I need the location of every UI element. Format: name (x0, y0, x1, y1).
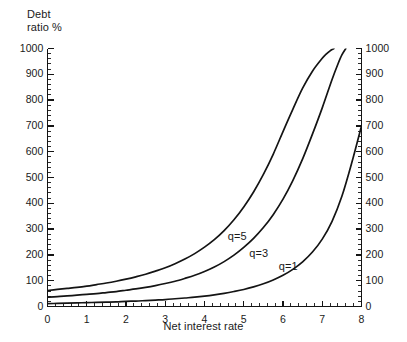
curve-label: q=1 (279, 260, 298, 272)
y-axis-title-text-2: ratio % (27, 21, 62, 33)
y-axis-tick-label: 100 (26, 274, 44, 286)
curve-label: q=5 (228, 230, 247, 242)
y-axis-tick-label: 800 (26, 93, 44, 105)
x-axis-tick-label: 3 (145, 313, 185, 325)
debt-ratio-line-chart (0, 0, 407, 342)
axes-group (48, 49, 362, 307)
y-axis-tick-label: 700 (26, 119, 44, 131)
y-axis-right-tick-label: 300 (366, 222, 384, 234)
y-axis-tick-label: 400 (26, 196, 44, 208)
y-axis-right-tick-label: 500 (366, 171, 384, 183)
y-axis-right-tick-label: 600 (366, 145, 384, 157)
curves-group (48, 49, 362, 304)
x-axis-tick-label: 8 (342, 313, 382, 325)
y-axis-right-tick-label: 200 (366, 248, 384, 260)
y-axis-right-tick-label: 100 (366, 274, 384, 286)
chart-figure: Debtratio % Net interest rate 0100200300… (0, 0, 407, 342)
y-axis-right-tick-label: 1000 (366, 42, 390, 54)
y-axis-right-tick-label: 900 (366, 67, 384, 79)
curve-label: q=3 (249, 247, 268, 259)
y-axis-right-tick-label: 800 (366, 93, 384, 105)
y-axis-tick-label: 600 (26, 145, 44, 157)
x-axis-tick-label: 2 (106, 313, 146, 325)
x-axis-tick-label: 1 (67, 313, 107, 325)
x-axis-tick-label: 5 (224, 313, 264, 325)
y-axis-title-text: Debt (27, 8, 51, 20)
y-axis-tick-label: 1000 (20, 42, 44, 54)
x-axis-tick-label: 0 (28, 313, 68, 325)
data-curve (48, 126, 362, 304)
y-axis-right-tick-label: 400 (366, 196, 384, 208)
x-axis-tick-label: 6 (263, 313, 303, 325)
y-axis-right-tick-label: 700 (366, 119, 384, 131)
y-axis-title: Debtratio % (27, 8, 62, 33)
y-axis-tick-label: 900 (26, 67, 44, 79)
y-axis-right-tick-label: 0 (366, 300, 372, 312)
y-axis-tick-label: 300 (26, 222, 44, 234)
y-axis-tick-label: 500 (26, 171, 44, 183)
data-curve (48, 49, 335, 291)
data-curve (48, 49, 346, 298)
x-axis-tick-label: 7 (302, 313, 342, 325)
y-axis-tick-label: 200 (26, 248, 44, 260)
y-axis-tick-label: 0 (38, 300, 44, 312)
x-axis-tick-label: 4 (185, 313, 225, 325)
